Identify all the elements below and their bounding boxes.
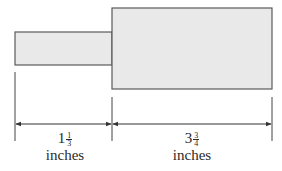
large-rectangle [112,8,272,89]
right-denominator: 4 [193,140,199,147]
left-denominator: 3 [66,140,72,147]
left-whole: 1 [58,130,66,146]
left-unit: inches [30,147,100,163]
left-dimension-label: 113 inches [30,130,100,163]
left-fraction: 13 [66,132,72,147]
right-dimension-value: 334 [157,130,227,147]
right-fraction: 34 [193,132,199,147]
right-dimension-label: 334 inches [157,130,227,163]
right-whole: 3 [185,130,193,146]
left-dimension-value: 113 [30,130,100,147]
small-rectangle [15,32,112,65]
right-unit: inches [157,147,227,163]
